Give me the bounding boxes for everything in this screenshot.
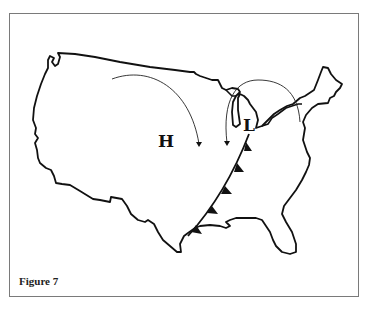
arrowhead-low bbox=[224, 141, 230, 146]
cold-front-line bbox=[188, 134, 249, 236]
us-weather-map bbox=[0, 0, 370, 309]
high-pressure-label: H bbox=[158, 133, 174, 150]
us-outline bbox=[33, 53, 342, 254]
low-pressure-label: L bbox=[243, 117, 255, 134]
airflow-arrow-high bbox=[112, 75, 199, 144]
figure-caption: Figure 7 bbox=[19, 275, 58, 287]
arrowhead-high bbox=[196, 142, 202, 147]
